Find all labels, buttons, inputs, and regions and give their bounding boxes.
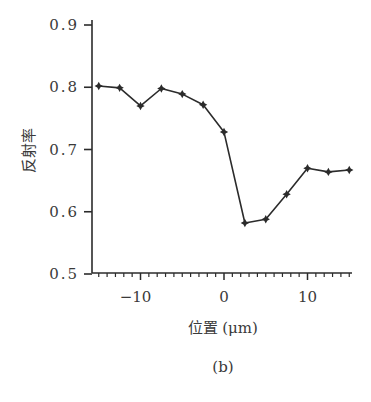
reflectance-chart: 0.50.60.70.80.9 −10010 反射率 位置(μm) (b)	[0, 0, 371, 402]
y-tick-label: 0.8	[49, 78, 79, 96]
figure-caption: (b)	[212, 358, 233, 376]
x-axis: −10010	[92, 273, 352, 306]
y-tick-label: 0.9	[49, 16, 79, 34]
x-axis-title-main: 位置	[188, 319, 218, 337]
series-line	[99, 86, 350, 223]
y-tick-label: 0.7	[49, 141, 79, 159]
x-axis-title-unit: (μm)	[222, 319, 258, 337]
y-tick-label: 0.6	[49, 203, 79, 221]
data-point-marker	[345, 166, 353, 174]
data-point-marker	[95, 82, 103, 90]
data-point-marker	[241, 219, 249, 227]
data-point-marker	[178, 90, 186, 98]
x-tick-label: 0	[219, 288, 229, 306]
y-axis-title: 反射率	[20, 128, 38, 173]
x-tick-label: −10	[120, 288, 152, 306]
y-axis: 0.50.60.70.80.9	[49, 16, 92, 283]
chart-canvas: 0.50.60.70.80.9 −10010 反射率 位置(μm) (b)	[0, 0, 371, 402]
x-axis-title: 位置(μm)	[188, 319, 258, 337]
data-point-marker	[324, 168, 332, 176]
y-tick-label: 0.5	[49, 265, 79, 283]
x-tick-label: 10	[298, 288, 317, 306]
data-series	[95, 82, 354, 227]
